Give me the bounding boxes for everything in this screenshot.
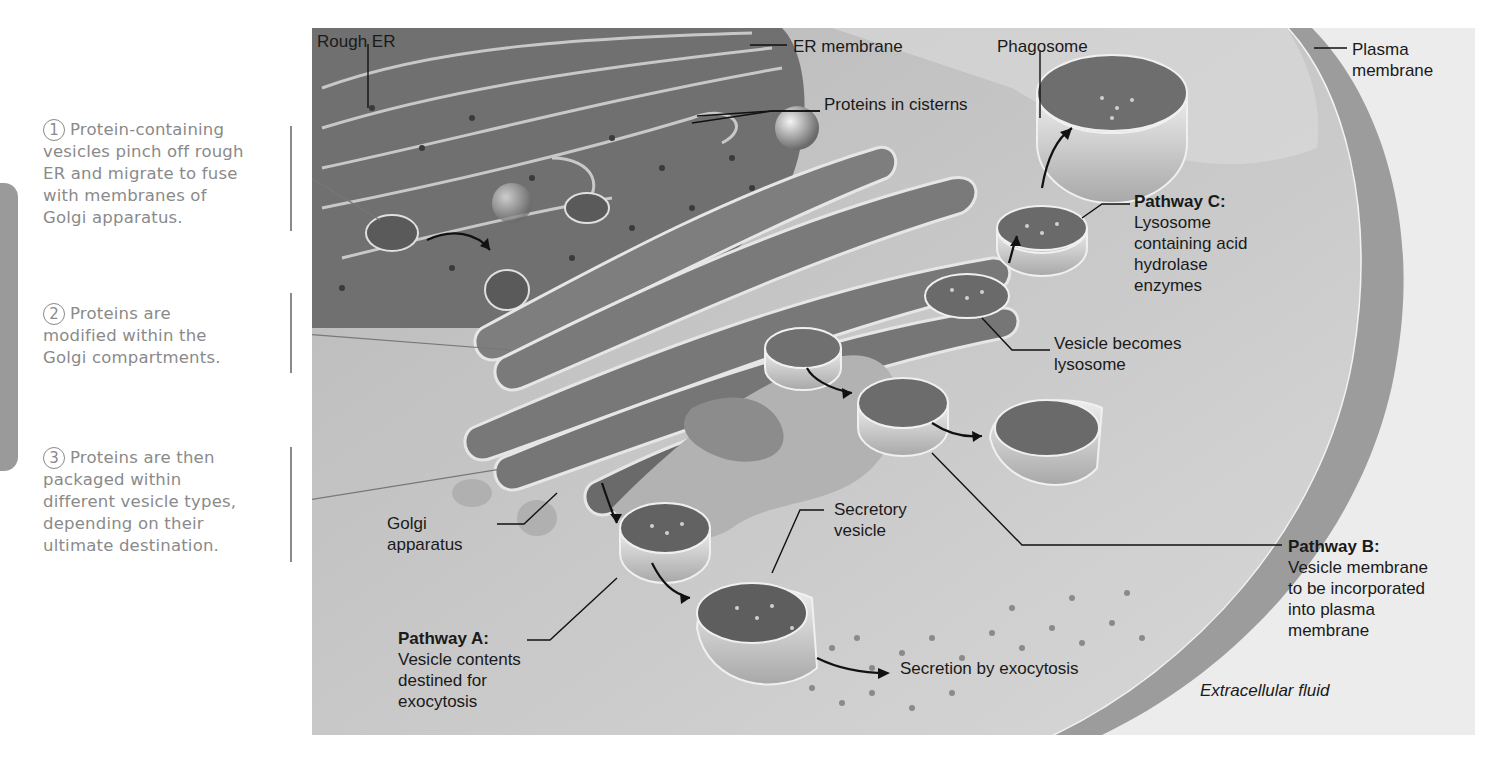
label-vesicle-becomes-lysosome: Vesicle becomes lysosome bbox=[1054, 333, 1182, 375]
step-number-badge: 1 bbox=[43, 119, 65, 141]
label-pathway-c: Pathway C: Lysosome containing acid hydr… bbox=[1134, 191, 1247, 296]
label-pathway-a: Pathway A: Vesicle contents destined for… bbox=[398, 628, 521, 712]
label-phagosome: Phagosome bbox=[997, 36, 1088, 57]
label-golgi-apparatus: Golgi apparatus bbox=[387, 513, 463, 555]
step-2-caption: 2Proteins are modified within the Golgi … bbox=[43, 303, 221, 369]
label-er-membrane: ER membrane bbox=[793, 36, 903, 57]
label-secretory-vesicle: Secretory vesicle bbox=[834, 499, 907, 541]
label-rough-er: Rough ER bbox=[317, 31, 395, 52]
step-2-bracket bbox=[290, 293, 292, 373]
chapter-side-tab bbox=[0, 183, 18, 471]
label-plasma-membrane: Plasma membrane bbox=[1352, 39, 1433, 81]
step-number-badge: 3 bbox=[43, 447, 65, 469]
label-extracellular-fluid: Extracellular fluid bbox=[1200, 680, 1329, 701]
diagram-panel: Rough ER ER membrane Proteins in cistern… bbox=[312, 28, 1475, 735]
step-1-bracket bbox=[290, 126, 292, 231]
step-3-caption: 3Proteins are then packaged within diffe… bbox=[43, 447, 236, 557]
label-proteins-in-cisterns: Proteins in cisterns bbox=[824, 94, 968, 115]
label-pathway-b: Pathway B: Vesicle membrane to be incorp… bbox=[1288, 536, 1428, 641]
label-secretion-by-exocytosis: Secretion by exocytosis bbox=[900, 658, 1079, 679]
step-3-bracket bbox=[290, 447, 292, 562]
step-1-caption: 1Protein-containing vesicles pinch off r… bbox=[43, 119, 244, 229]
step-number-badge: 2 bbox=[43, 303, 65, 325]
